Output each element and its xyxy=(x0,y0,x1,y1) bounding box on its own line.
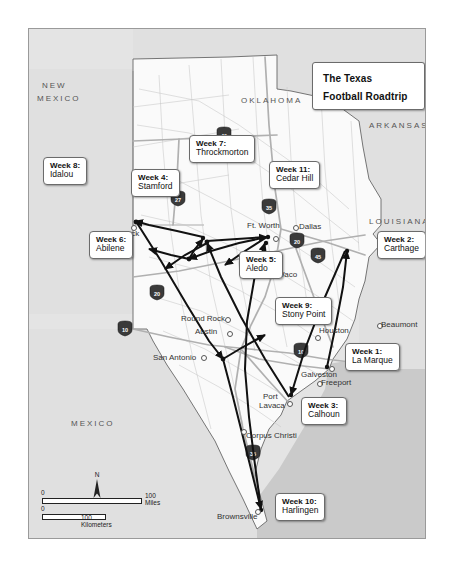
city-dot-port-lavaca xyxy=(287,401,293,407)
scale-km-label: 100 Kilometers xyxy=(81,514,112,528)
callout-week-9[interactable]: Week 9: Stony Point xyxy=(275,297,332,325)
callout-week-5[interactable]: Week 5: Aledo xyxy=(239,251,283,279)
city-label-freeport: Freeport xyxy=(321,378,351,387)
city-label-san-antonio: San Antonio xyxy=(153,353,196,362)
callout-week-6[interactable]: Week 6: Abilene xyxy=(89,231,133,259)
scale-miles-label: 100 Miles xyxy=(145,492,160,506)
callout-week-10[interactable]: Week 10: Harlingen xyxy=(275,493,325,521)
map-title-box: The Texas Football Roadtrip xyxy=(312,62,425,110)
city-dot-houston xyxy=(315,335,321,341)
callout-week-7[interactable]: Week 7: Throckmorton xyxy=(189,135,255,163)
city-dot-austin xyxy=(227,331,233,337)
callout-week-1[interactable]: Week 1: La Marque xyxy=(345,343,400,371)
shield-i20e-label: 20 xyxy=(294,239,300,245)
city-label-brownsville: Brownsville xyxy=(217,512,257,521)
callout-week-11-place: Cedar Hill xyxy=(276,174,313,184)
callout-week-10-place: Harlingen xyxy=(282,506,318,516)
map-canvas[interactable]: 40 27 35 20 20 45 xyxy=(28,28,426,539)
callout-week-11[interactable]: Week 11: Cedar Hill xyxy=(269,161,320,189)
shield-i10w-label: 10 xyxy=(122,327,128,333)
callout-week-1-place: La Marque xyxy=(352,356,393,366)
callout-week-5-place: Aledo xyxy=(246,264,276,274)
callout-week-8[interactable]: Week 8: Idalou xyxy=(43,157,87,185)
north-arrow-icon xyxy=(91,479,103,499)
state-label-new-mexico-line1: NEW xyxy=(42,81,67,90)
city-label-austin: Austin xyxy=(195,327,217,336)
city-label-port-lavaca-line2: Lavaca xyxy=(259,401,285,410)
scale-km-zero: 0 xyxy=(41,505,45,512)
shield-i27-label: 27 xyxy=(175,197,181,203)
state-label-oklahoma: OKLAHOMA xyxy=(241,96,302,105)
city-label-ft-worth: Ft. Worth xyxy=(247,221,280,230)
city-label-round-rock: Round Rock xyxy=(181,314,225,323)
new-mexico-landmass xyxy=(29,69,133,314)
city-label-corpus-christi: Corpus Christi xyxy=(246,431,297,440)
state-label-new-mexico-line2: MEXICO xyxy=(37,94,81,103)
shield-i20w-label: 20 xyxy=(154,291,160,297)
callout-week-9-place: Stony Point xyxy=(282,310,325,320)
city-label-beaumont: Beaumont xyxy=(381,320,417,329)
city-label-port-lavaca-line1: Port xyxy=(263,392,278,401)
state-label-louisiana: LOUISIANA xyxy=(369,217,426,226)
shield-i35n-label: 35 xyxy=(266,205,272,211)
scale-bar-miles xyxy=(42,498,142,504)
city-label-houston: Houston xyxy=(319,326,349,335)
state-label-arkansas: ARKANSAS xyxy=(369,121,426,130)
city-dot-ft-worth xyxy=(273,236,279,242)
scale-miles-zero: 0 xyxy=(41,489,45,496)
callout-week-8-place: Idalou xyxy=(50,170,80,180)
callout-week-3-place: Calhoun xyxy=(308,410,340,420)
state-label-mexico: MEXICO xyxy=(71,419,115,428)
callout-week-6-place: Abilene xyxy=(96,244,126,254)
callout-week-2[interactable]: Week 2: Carthage xyxy=(377,231,426,259)
city-dot-san-antonio xyxy=(201,355,207,361)
map-title: The Texas Football Roadtrip xyxy=(323,73,407,102)
callout-week-4[interactable]: Week 4: Stamford xyxy=(131,169,180,197)
callout-week-3[interactable]: Week 3: Calhoun xyxy=(301,397,347,425)
callout-week-2-place: Carthage xyxy=(384,244,419,254)
city-dot-round-rock xyxy=(225,317,231,323)
shield-i45-label: 45 xyxy=(315,254,321,260)
callout-week-7-place: Throckmorton xyxy=(196,148,248,158)
city-label-dallas: Dallas xyxy=(299,222,321,231)
callout-week-4-place: Stamford xyxy=(138,182,173,192)
